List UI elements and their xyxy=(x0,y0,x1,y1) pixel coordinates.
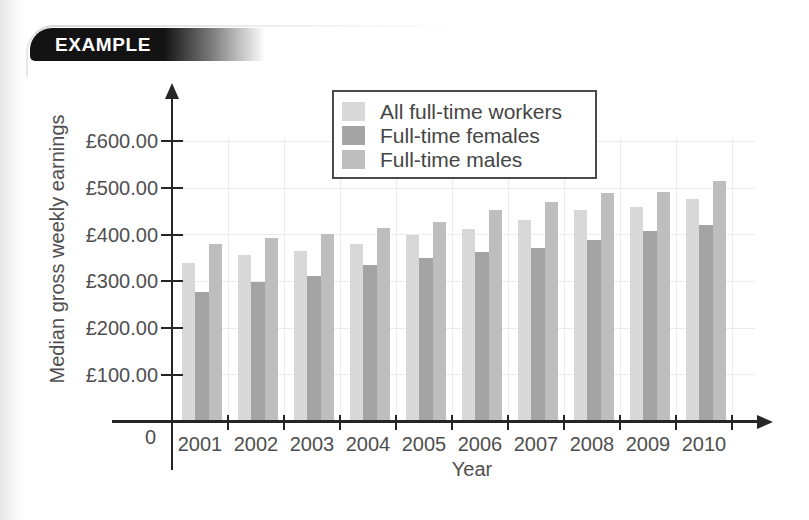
x-axis-title: Year xyxy=(172,458,772,481)
legend-label: Full-time females xyxy=(380,124,540,147)
bar-2008-series-2 xyxy=(601,193,614,422)
gridline-vertical xyxy=(732,138,733,422)
x-tick-label: 2007 xyxy=(508,432,564,456)
bar-2003-series-1 xyxy=(307,276,320,422)
bar-2004-series-1 xyxy=(363,265,376,422)
gridline-vertical xyxy=(564,138,565,422)
example-banner-label: EXAMPLE xyxy=(30,28,270,61)
bar-2008-series-0 xyxy=(574,210,587,422)
gridline-vertical xyxy=(228,138,229,422)
bar-2001-series-2 xyxy=(209,244,222,421)
bar-2007-series-2 xyxy=(545,202,558,422)
y-tick-label: £400.00 xyxy=(56,223,158,247)
x-tick-label: 2006 xyxy=(452,432,508,456)
bar-2009-series-1 xyxy=(643,231,656,422)
bar-2005-series-0 xyxy=(406,235,419,421)
y-axis-title: Median gross weekly earnings xyxy=(46,114,69,383)
y-tick-label: £100.00 xyxy=(56,363,158,387)
bar-2006-series-2 xyxy=(489,210,502,422)
bar-2005-series-2 xyxy=(433,222,446,422)
legend-item: All full-time workers xyxy=(342,100,585,123)
y-tick-label: £200.00 xyxy=(56,316,158,340)
bar-2007-series-1 xyxy=(531,248,544,421)
y-tick-label: £300.00 xyxy=(56,269,158,293)
gridline-vertical xyxy=(396,138,397,422)
bar-2003-series-0 xyxy=(294,251,307,422)
bar-2010-series-2 xyxy=(713,181,726,421)
bar-2008-series-1 xyxy=(587,240,600,422)
y-axis-line xyxy=(171,96,173,470)
y-tick-label: £600.00 xyxy=(56,129,158,153)
bar-2002-series-2 xyxy=(265,238,278,421)
gridline-vertical xyxy=(452,138,453,422)
gridline-vertical xyxy=(620,138,621,422)
bar-2010-series-1 xyxy=(699,225,712,422)
legend-swatch-females xyxy=(342,126,365,145)
legend: All full-time workers Full-time females … xyxy=(332,90,597,179)
bar-2004-series-0 xyxy=(350,244,363,421)
bar-2009-series-0 xyxy=(630,207,643,421)
gridline-horizontal xyxy=(172,188,755,189)
x-tick-label: 2005 xyxy=(396,432,452,456)
legend-item: Full-time males xyxy=(342,148,585,171)
bar-2005-series-1 xyxy=(419,258,432,421)
legend-label: Full-time males xyxy=(380,148,522,171)
origin-label: 0 xyxy=(106,426,156,449)
x-tick-label: 2010 xyxy=(676,432,732,456)
x-tick-label: 2009 xyxy=(620,432,676,456)
bar-2001-series-1 xyxy=(195,292,208,422)
x-axis-line xyxy=(112,420,759,422)
gridline-vertical xyxy=(508,138,509,422)
bar-2003-series-2 xyxy=(321,234,334,421)
bar-2002-series-1 xyxy=(251,282,264,421)
bar-chart: £100.00£200.00£300.00£400.00£500.00£600.… xyxy=(0,0,809,520)
gridline-vertical xyxy=(676,138,677,422)
gridline-vertical xyxy=(284,138,285,422)
bar-2001-series-0 xyxy=(182,263,195,422)
bar-2006-series-0 xyxy=(462,229,475,422)
gridline-vertical xyxy=(340,138,341,422)
bar-2002-series-0 xyxy=(238,255,251,422)
legend-label: All full-time workers xyxy=(380,100,562,123)
bar-2009-series-2 xyxy=(657,192,670,422)
y-tick-label: £500.00 xyxy=(56,176,158,200)
bar-2007-series-0 xyxy=(518,220,531,421)
bar-2004-series-2 xyxy=(377,228,390,422)
x-tick-label: 2008 xyxy=(564,432,620,456)
x-tick-label: 2001 xyxy=(172,432,228,456)
x-tick-label: 2002 xyxy=(228,432,284,456)
x-axis-arrow-icon xyxy=(757,415,773,429)
bar-2010-series-0 xyxy=(686,199,699,421)
bar-2006-series-1 xyxy=(475,252,488,421)
x-tick-label: 2004 xyxy=(340,432,396,456)
y-axis-arrow-icon xyxy=(165,83,179,99)
x-tick-label: 2003 xyxy=(284,432,340,456)
legend-swatch-all-workers xyxy=(342,102,365,121)
legend-item: Full-time females xyxy=(342,124,585,147)
example-banner: EXAMPLE xyxy=(30,28,270,61)
legend-swatch-males xyxy=(342,150,365,169)
